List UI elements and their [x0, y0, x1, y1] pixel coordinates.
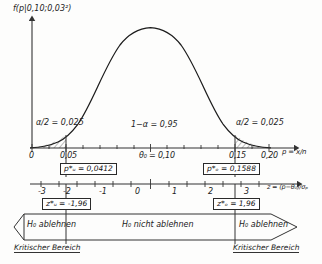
p-lower-critical-box: p*ᵤ = 0,0412: [60, 163, 117, 175]
p-tick-theta0: θ₀ = 0,10: [139, 152, 175, 160]
z-lower-critical-box: z*ᵤ = -1,96: [42, 198, 91, 210]
z-tick-2: 2: [208, 188, 213, 196]
p-tick-015: 0,15: [229, 152, 246, 160]
p-tick-0: 0: [29, 152, 34, 160]
alpha-left-label: α/2 = 0,025: [36, 119, 84, 127]
z-axis-symbol: z = (p−θ₀)/σₚ: [267, 184, 308, 191]
y-axis-label: f(p|0,10;0,03²): [13, 5, 71, 13]
band-center-label: H₀ nicht ablehnen: [122, 220, 193, 229]
z-tick-neg3: -3: [38, 188, 46, 196]
p-tick-020: 0,20: [261, 152, 278, 160]
z-tick-neg1: -1: [99, 188, 107, 196]
z-upper-critical-box: z*ₒ = 1,96: [213, 198, 260, 210]
critical-region-left-label: Kritischer Bereich: [14, 243, 80, 253]
alpha-right-label: α/2 = 0,025: [236, 119, 284, 127]
z-tick-1: 1: [172, 188, 177, 196]
band-right-label: H₀ ablehnen: [239, 220, 288, 229]
p-upper-critical-box: p*ₒ = 0,1588: [203, 163, 260, 175]
p-tick-005: 0,05: [60, 152, 77, 160]
figure-canvas: f(p|0,10;0,03²) α/2 = 0,025 1−α = 0,95 α…: [0, 0, 322, 264]
band-left-label: H₀ ablehnen: [27, 220, 76, 229]
z-tick-0: 0: [135, 188, 140, 196]
z-tick-neg2: -2: [63, 188, 71, 196]
confidence-label: 1−α = 0,95: [131, 121, 178, 129]
critical-region-right-label: Kritischer Bereich: [233, 243, 299, 253]
band-arrow-left: [14, 214, 24, 240]
density-curve: [30, 28, 271, 148]
z-tick-3: 3: [244, 188, 249, 196]
p-axis-symbol: p = x/n: [282, 149, 306, 156]
